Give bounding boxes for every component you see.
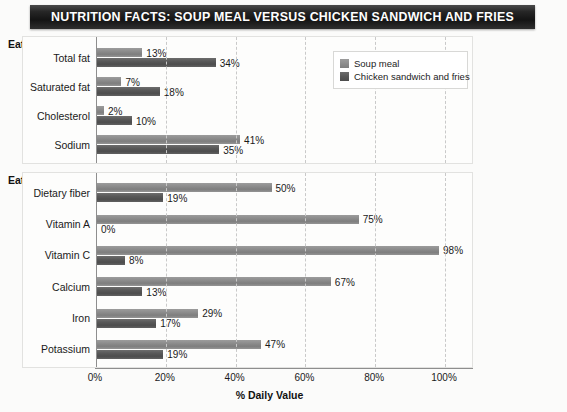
bar-soup-meal: 98%: [97, 246, 439, 255]
eat-more-gridline-60: [305, 173, 306, 367]
category-label: Cholesterol: [37, 110, 90, 122]
bar-soup-meal: 67%: [97, 277, 331, 286]
category-label: Saturated fat: [30, 81, 90, 93]
category-label: Iron: [72, 312, 90, 324]
bar-chicken-sandwich: 19%: [97, 350, 163, 359]
bar-value-label: 19%: [167, 192, 187, 203]
bar-value-label: 2%: [108, 105, 122, 116]
eat-more-gridline-100: [445, 173, 446, 367]
bar-soup-meal: 75%: [97, 215, 359, 224]
category-label: Sodium: [54, 139, 90, 151]
category-label: Calcium: [52, 281, 90, 293]
plot-area-eat-more: Dietary fiber50%19%Vitamin A75%0%Vitamin…: [96, 173, 472, 367]
x-tick-label-80: 80%: [364, 372, 384, 383]
bar-rows-eat-more: Dietary fiber50%19%Vitamin A75%0%Vitamin…: [96, 173, 472, 367]
bar-soup-meal: 50%: [97, 183, 272, 192]
x-tick-label-100: 100%: [431, 372, 457, 383]
bar-soup-meal: 29%: [97, 309, 198, 318]
x-tick-label-20: 20%: [155, 372, 175, 383]
legend-item-chicken-sandwich: Chicken sandwich and fries: [340, 71, 461, 82]
bar-chicken-sandwich: 19%: [97, 193, 163, 202]
bar-value-label: 29%: [202, 308, 222, 319]
category-label: Vitamin A: [46, 218, 90, 230]
bar-value-label: 8%: [129, 255, 143, 266]
bar-value-label: 13%: [146, 47, 166, 58]
bar-chicken-sandwich: 17%: [97, 319, 156, 328]
bar-value-label: 7%: [125, 76, 139, 87]
legend-item-soup-meal: Soup meal: [340, 58, 461, 69]
category-label: Vitamin C: [45, 249, 90, 261]
x-tick-label-40: 40%: [225, 372, 245, 383]
bar-value-label: 10%: [136, 115, 156, 126]
x-tick-label-0: 0%: [88, 372, 102, 383]
bar-value-label: 13%: [146, 286, 166, 297]
eat-more-gridline-80: [375, 173, 376, 367]
eat-less-gridline-60: [305, 37, 306, 163]
legend-swatch-icon-soup-meal: [340, 59, 349, 68]
category-label: Dietary fiber: [33, 187, 90, 199]
bar-soup-meal: 2%: [97, 106, 104, 115]
bar-value-label: 0%: [101, 224, 115, 235]
bar-value-label: 75%: [363, 214, 383, 225]
chart-legend: Soup meal Chicken sandwich and fries: [333, 51, 468, 89]
eat-more-gridline-20: [166, 173, 167, 367]
chart-title-banner: NUTRITION FACTS: SOUP MEAL VERSUS CHICKE…: [30, 5, 535, 29]
bar-chicken-sandwich: 18%: [97, 87, 160, 96]
bar-value-label: 98%: [443, 245, 463, 256]
bar-value-label: 50%: [276, 182, 296, 193]
chart-panel-eat-more: Dietary fiber50%19%Vitamin A75%0%Vitamin…: [22, 172, 473, 368]
bar-value-label: 35%: [223, 144, 243, 155]
bar-value-label: 47%: [265, 339, 285, 350]
legend-swatch-icon-chicken-sandwich: [340, 72, 349, 81]
bar-soup-meal: 7%: [97, 77, 121, 86]
x-axis-line-extension: [444, 368, 473, 369]
bar-chicken-sandwich: 13%: [97, 287, 142, 296]
category-label: Potassium: [41, 343, 90, 355]
legend-label-soup-meal: Soup meal: [354, 58, 399, 69]
bar-chicken-sandwich: 34%: [97, 58, 216, 67]
bar-chicken-sandwich: 10%: [97, 116, 132, 125]
eat-less-gridline-20: [166, 37, 167, 163]
eat-less-gridline-40: [236, 37, 237, 163]
bar-chicken-sandwich: 35%: [97, 145, 219, 154]
x-axis-title: % Daily Value: [95, 389, 444, 401]
x-tick-label-60: 60%: [294, 372, 314, 383]
eat-more-gridline-40: [236, 173, 237, 367]
x-axis-line: [95, 368, 444, 369]
bar-value-label: 17%: [160, 318, 180, 329]
bar-value-label: 34%: [220, 57, 240, 68]
bar-value-label: 67%: [335, 276, 355, 287]
bar-value-label: 18%: [164, 86, 184, 97]
bar-value-label: 19%: [167, 349, 187, 360]
bar-soup-meal: 13%: [97, 48, 142, 57]
bar-soup-meal: 41%: [97, 135, 240, 144]
legend-label-chicken-sandwich: Chicken sandwich and fries: [354, 71, 470, 82]
page-title: NUTRITION FACTS: SOUP MEAL VERSUS CHICKE…: [51, 10, 514, 24]
bar-value-label: 41%: [244, 134, 264, 145]
category-label: Total fat: [53, 52, 90, 64]
bar-chicken-sandwich: 8%: [97, 256, 125, 265]
